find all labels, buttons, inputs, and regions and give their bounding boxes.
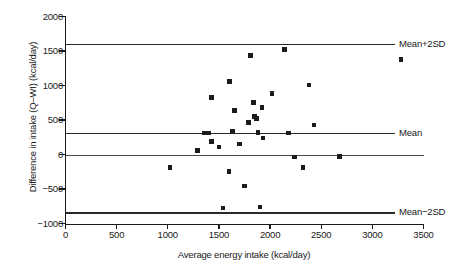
- data-point: [399, 57, 404, 62]
- x-tick: [218, 224, 219, 229]
- x-tick-label: 500: [94, 230, 140, 240]
- x-tick: [423, 224, 424, 229]
- data-point: [260, 105, 265, 110]
- x-tick: [269, 224, 270, 229]
- reference-line: [66, 212, 396, 213]
- data-point: [232, 108, 237, 113]
- zero-line: [66, 155, 424, 156]
- data-point: [307, 83, 312, 88]
- x-tick: [321, 224, 322, 229]
- data-point: [292, 155, 297, 160]
- x-tick: [116, 224, 117, 229]
- x-tick: [167, 224, 168, 229]
- data-point: [251, 100, 256, 105]
- reference-line: [66, 44, 396, 45]
- y-axis-title: Difference in intake (Q–WI) (kcal/day): [28, 22, 38, 212]
- x-axis-line: [65, 224, 423, 225]
- x-tick-label: 2500: [298, 230, 344, 240]
- data-point: [221, 206, 226, 211]
- y-tick-label: 0: [17, 150, 63, 160]
- x-tick-label: 1000: [145, 230, 191, 240]
- y-axis-line: [65, 16, 66, 224]
- data-point: [237, 142, 242, 147]
- data-point: [282, 47, 287, 52]
- data-point: [230, 129, 235, 134]
- data-point: [258, 205, 263, 210]
- data-point: [217, 145, 222, 150]
- data-point: [168, 165, 173, 170]
- data-point: [227, 79, 232, 84]
- data-point: [209, 95, 214, 100]
- x-tick: [65, 224, 66, 229]
- data-point: [206, 131, 211, 136]
- y-tick-label: 1500: [17, 46, 63, 56]
- y-tick-label: −1000: [17, 219, 63, 229]
- data-point: [254, 116, 259, 121]
- x-tick-label: 1500: [196, 230, 242, 240]
- y-tick-label: 1000: [17, 81, 63, 91]
- data-point: [242, 184, 247, 189]
- x-tick-label: 2000: [247, 230, 293, 240]
- reference-line-label: Mean+2SD: [399, 39, 445, 49]
- x-tick-label: 0: [43, 230, 89, 240]
- x-tick-label: 3500: [401, 230, 447, 240]
- y-tick-label: −500: [17, 184, 63, 194]
- data-point: [195, 148, 200, 153]
- data-point: [261, 136, 266, 141]
- y-tick-label: 2000: [17, 12, 63, 22]
- x-tick-label: 3000: [349, 230, 395, 240]
- data-point: [227, 169, 232, 174]
- data-point: [301, 165, 306, 170]
- data-point: [270, 91, 275, 96]
- y-tick-label: 500: [17, 115, 63, 125]
- data-point: [312, 123, 317, 128]
- data-point: [286, 131, 291, 136]
- data-point: [246, 120, 251, 125]
- data-point: [248, 53, 253, 58]
- reference-line-label: Mean−2SD: [399, 207, 445, 217]
- reference-line-label: Mean: [399, 128, 422, 138]
- x-axis-title: Average energy intake (kcal/day): [65, 250, 423, 260]
- data-point: [209, 139, 214, 144]
- data-point: [337, 154, 342, 159]
- data-point: [256, 130, 261, 135]
- x-tick: [372, 224, 373, 229]
- bland-altman-scatter-plot: −1000−5000500100015002000 05001000150020…: [0, 0, 459, 272]
